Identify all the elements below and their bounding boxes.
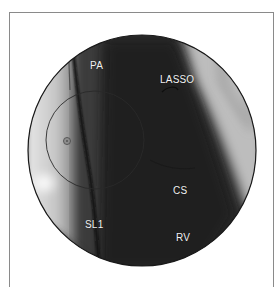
label-cs: CS (173, 186, 187, 196)
label-pa: PA (90, 61, 103, 71)
label-lasso: LASSO (160, 75, 194, 85)
label-sl1: SL1 (85, 220, 103, 230)
label-rv: RV (176, 233, 190, 243)
